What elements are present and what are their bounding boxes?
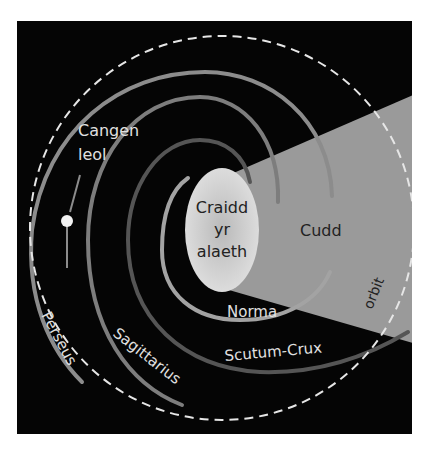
norma-label: Norma bbox=[227, 303, 277, 321]
core-label-line2: yr bbox=[214, 220, 230, 239]
hidden-zone-label: Cudd bbox=[300, 221, 342, 240]
sun-label-line2: leol bbox=[78, 145, 107, 164]
sun-label: Cangen bbox=[78, 121, 139, 140]
core-label-line1: Craidd bbox=[196, 198, 248, 217]
sun-marker bbox=[61, 215, 73, 227]
core-label-line3: alaeth bbox=[197, 242, 247, 261]
galaxy-diagram: Cangen leol Craidd yr alaeth Cudd Norma … bbox=[0, 0, 427, 449]
